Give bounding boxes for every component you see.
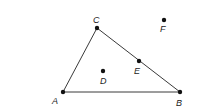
point-d [101,69,105,73]
label-a: A [51,96,58,106]
point-a [61,90,65,94]
point-c [95,26,99,30]
label-c: C [93,15,100,25]
point-b [178,90,182,94]
label-b: B [176,98,182,108]
point-e [137,59,141,63]
segment-ac [63,28,97,92]
label-d: D [100,76,107,86]
geometry-diagram: A B C D E F [0,0,200,112]
label-e: E [134,66,141,76]
label-f: F [160,24,166,34]
point-f [162,18,166,22]
